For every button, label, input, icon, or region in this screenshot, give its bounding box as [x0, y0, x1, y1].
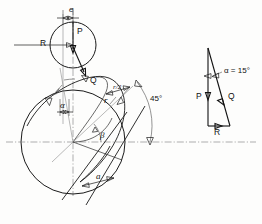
label-roller-radius-R: R [40, 39, 46, 48]
label-angle-45: 45° [150, 95, 162, 103]
cam-force-diagram: e R P Q α r r/2 β a 45° α = 15° P Q R [0, 0, 262, 224]
alpha-arc [64, 79, 75, 80]
angle-45-arc [137, 82, 152, 142]
force-q-head [81, 68, 86, 76]
label-force-p: P [77, 27, 83, 36]
cam-inner-arc [73, 118, 112, 142]
chord-to-flank [73, 142, 122, 160]
label-angle-beta: β [100, 131, 104, 140]
normal-arrow-q [117, 97, 124, 105]
label-eccentricity-e: e [69, 6, 73, 14]
label-triangle-r: R [214, 128, 220, 137]
cam-profile-flank [80, 146, 110, 182]
triangle-q-head [218, 99, 224, 105]
label-distance-a: a [96, 172, 101, 181]
alpha-leader-head [53, 89, 59, 96]
label-half-radius: r/2 [113, 84, 121, 91]
triangle-q-shaft [208, 48, 230, 126]
diagram-canvas [0, 0, 262, 224]
label-triangle-q: Q [228, 92, 235, 101]
label-contact-point-q: Q [90, 76, 97, 85]
label-cam-radius-r: r [104, 96, 108, 105]
label-triangle-p: P [196, 92, 202, 101]
label-alpha-value: α = 15° [224, 67, 250, 75]
construction-spoke [52, 142, 73, 162]
label-angle-alpha: α [60, 101, 65, 110]
cam-profile-upper [27, 76, 125, 182]
cam-flank-45-line [62, 112, 127, 200]
